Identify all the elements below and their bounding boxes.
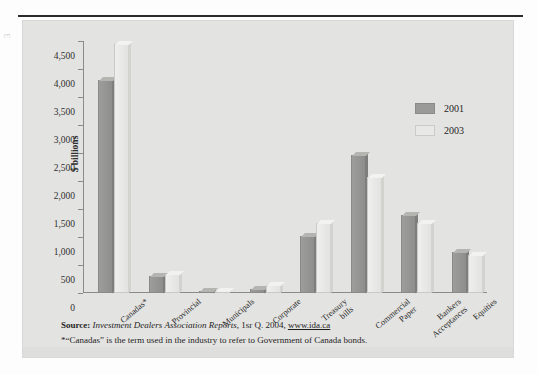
- bar-2001: [351, 155, 366, 293]
- bar-group: [98, 41, 128, 293]
- figure-page: 3 $ billions 05001,0001,5002,0002,5003,0…: [0, 0, 537, 374]
- chart-legend: 2001 2003: [415, 103, 510, 147]
- figure-source-note: Source: Investment Dealers Association R…: [61, 319, 499, 347]
- y-tick-label: 4,000: [23, 79, 75, 89]
- bar-2001: [149, 276, 164, 293]
- bar-group: [351, 41, 381, 293]
- bar-2001: [401, 215, 416, 293]
- chart-figure: $ billions 05001,0001,5002,0002,5003,000…: [22, 20, 514, 358]
- bar-2003: [316, 223, 331, 293]
- bar-2003: [367, 177, 382, 293]
- source-url[interactable]: www.ida.ca: [288, 320, 330, 330]
- top-rule: [18, 15, 523, 17]
- y-tick-mark: [78, 181, 83, 182]
- bar-2003: [417, 223, 432, 293]
- y-tick-label: 2,500: [23, 163, 75, 173]
- source-footnote: *“Canadas” is the term used in the indus…: [61, 334, 499, 347]
- bar-group: [452, 41, 482, 293]
- y-tick-mark: [78, 125, 83, 126]
- y-tick-mark: [78, 153, 83, 154]
- y-tick-mark: [78, 293, 83, 294]
- bar-2003: [266, 285, 281, 293]
- legend-label-2003: 2003: [444, 125, 464, 136]
- y-tick-label: 1,500: [23, 219, 75, 229]
- bar-top-cap: [267, 282, 285, 286]
- bar-side-face: [381, 175, 384, 294]
- bar-group: [250, 41, 280, 293]
- y-axis-tick-labels: 05001,0001,5002,0002,5003,0003,5004,0004…: [23, 39, 75, 295]
- bar-side-face: [431, 221, 434, 294]
- y-tick-mark: [78, 41, 83, 42]
- y-tick-mark: [78, 97, 83, 98]
- bar-2003: [165, 274, 180, 293]
- legend-swatch-2001: [415, 103, 435, 114]
- y-tick-mark: [78, 69, 83, 70]
- y-tick-label: 1,000: [23, 247, 75, 257]
- y-tick-label: 2,000: [23, 191, 75, 201]
- y-tick-mark: [78, 265, 83, 266]
- bar-group: [401, 41, 431, 293]
- bar-2001: [300, 236, 315, 293]
- bar-side-face: [330, 221, 333, 294]
- bar-2003: [114, 44, 129, 293]
- bar-group: [199, 41, 229, 293]
- legend-item-2001: 2001: [415, 103, 510, 114]
- page-margin-mark: 3: [2, 33, 12, 39]
- bar-2001: [250, 289, 265, 293]
- y-tick-mark: [78, 209, 83, 210]
- bar-groups: [84, 41, 488, 293]
- source-label: Source:: [61, 320, 90, 330]
- plot-area: [83, 39, 493, 295]
- y-tick-label: 0: [23, 303, 75, 313]
- source-publication: Investment Dealers Association Reports: [93, 320, 237, 330]
- bar-2001: [199, 291, 214, 293]
- y-tick-label: 3,000: [23, 135, 75, 145]
- y-tick-label: 500: [23, 275, 75, 285]
- bar-2001: [98, 80, 113, 293]
- y-tick-mark: [78, 237, 83, 238]
- figure-bottom-band: [23, 347, 513, 357]
- bar-2003: [215, 291, 230, 293]
- legend-swatch-2003: [415, 125, 435, 136]
- legend-label-2001: 2001: [444, 103, 464, 114]
- bar-group: [300, 41, 330, 293]
- legend-item-2003: 2003: [415, 125, 510, 136]
- source-detail: , 1sr Q. 2004,: [237, 320, 288, 330]
- bar-side-face: [128, 41, 131, 293]
- bar-side-face: [482, 252, 485, 293]
- y-tick-label: 4,500: [23, 51, 75, 61]
- bar-group: [149, 41, 179, 293]
- bar-2003: [468, 255, 483, 293]
- bar-2001: [452, 252, 467, 293]
- y-tick-label: 3,500: [23, 107, 75, 117]
- source-line: Source: Investment Dealers Association R…: [61, 319, 499, 332]
